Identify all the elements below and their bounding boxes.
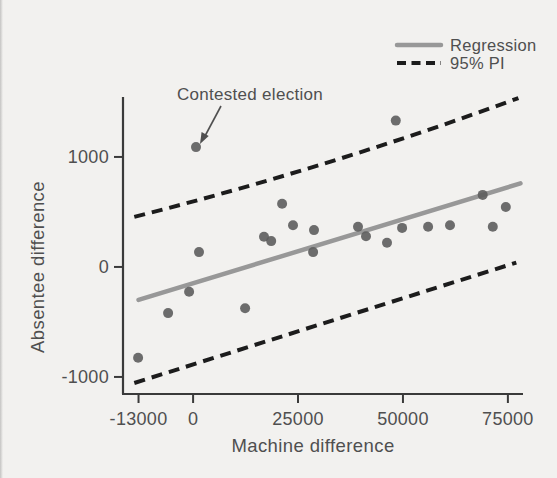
x-tick-label: 75000 xyxy=(482,409,534,429)
legend: Regression 95% PI xyxy=(397,36,536,72)
data-point xyxy=(194,247,204,257)
pi-upper-line xyxy=(134,98,518,217)
data-point xyxy=(184,287,194,297)
data-point xyxy=(308,247,318,257)
data-point xyxy=(277,199,287,209)
data-point xyxy=(488,222,498,232)
y-tick-label: 0 xyxy=(99,257,109,277)
data-point xyxy=(353,222,363,232)
x-tick-label: -13000 xyxy=(110,409,168,429)
x-tick-label: 50000 xyxy=(377,409,429,429)
data-point xyxy=(445,220,455,230)
contested-election-label: Contested election xyxy=(177,85,323,104)
data-point xyxy=(397,223,407,233)
x-tick-label: 0 xyxy=(188,409,198,429)
contested-election-point xyxy=(191,142,201,152)
data-point xyxy=(240,303,250,313)
x-axis-title: Machine difference xyxy=(231,435,394,456)
axis-ticks: -130000250005000075000-100001000 xyxy=(61,147,533,429)
scatter-plot-figure: -130000250005000075000-100001000 Machine… xyxy=(0,0,557,478)
data-point xyxy=(361,231,371,241)
y-axis-title: Absentee difference xyxy=(27,181,48,353)
data-point xyxy=(391,116,401,126)
data-point xyxy=(288,220,298,230)
x-tick-label: 25000 xyxy=(272,409,324,429)
legend-pi-label: 95% PI xyxy=(450,54,505,72)
y-tick-label: -1000 xyxy=(61,367,109,387)
pi-lower-line xyxy=(134,263,516,383)
data-point xyxy=(478,190,488,200)
data-point xyxy=(163,308,173,318)
data-point xyxy=(382,238,392,248)
data-point xyxy=(133,353,143,363)
data-point xyxy=(309,225,319,235)
data-point xyxy=(501,202,511,212)
legend-regression-label: Regression xyxy=(450,36,536,54)
y-tick-label: 1000 xyxy=(68,147,109,167)
data-point xyxy=(423,222,433,232)
annotation-arrow-icon xyxy=(200,106,221,144)
data-point xyxy=(266,236,276,246)
scatter-points xyxy=(133,116,511,363)
